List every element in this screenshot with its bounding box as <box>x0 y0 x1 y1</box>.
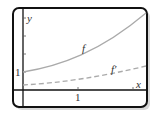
x-axis-label: x <box>135 78 141 90</box>
f-prime-label: f′ <box>111 63 117 75</box>
x-tick-label: 1 <box>75 91 81 103</box>
y-axis-label: y <box>26 12 32 24</box>
graph: y x 1 1 f f′ <box>0 0 156 115</box>
y-tick-label: 1 <box>15 66 21 78</box>
